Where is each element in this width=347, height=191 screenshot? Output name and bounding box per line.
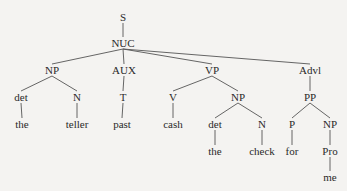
tree-node-NUC: NUC [111, 37, 134, 49]
tree-node-V: V [169, 91, 177, 103]
tree-node-check: check [249, 145, 275, 157]
tree-edge-NUC-NP1 [52, 49, 123, 64]
tree-edge-NP1-det1 [21, 76, 52, 91]
tree-node-me: me [323, 171, 336, 183]
tree-node-cash: cash [163, 118, 183, 130]
tree-edge-AUX-T [123, 76, 124, 91]
tree-node-the1: the [15, 118, 28, 130]
tree-edge-NP1-N1 [52, 76, 77, 91]
tree-node-Advl: Advl [299, 64, 321, 76]
tree-node-NP1: NP [45, 64, 59, 76]
tree-node-NP3: NP [323, 118, 337, 130]
tree-edge-NUC-VP [123, 49, 212, 64]
tree-edge-VP-V [173, 76, 212, 91]
tree-node-P: P [289, 118, 295, 130]
tree-node-the2: the [208, 145, 221, 157]
tree-node-past: past [113, 118, 131, 130]
tree-node-N1: N [73, 91, 81, 103]
tree-node-VP: VP [205, 64, 219, 76]
tree-node-det1: det [14, 91, 27, 103]
tree-node-NP2: NP [231, 91, 245, 103]
tree-edge-T-past [122, 103, 123, 118]
tree-edge-NUC-AUX [123, 49, 124, 64]
tree-edge-PP-NP3 [310, 103, 330, 118]
tree-node-N2: N [258, 118, 266, 130]
tree-node-det2: det [208, 118, 221, 130]
tree-node-S: S [120, 11, 126, 23]
tree-edge-det1-the1 [21, 103, 22, 118]
tree-node-T: T [120, 91, 127, 103]
tree-node-PP: PP [304, 91, 316, 103]
tree-edge-NP2-det2 [215, 103, 238, 118]
tree-node-Pro: Pro [322, 145, 337, 157]
tree-node-AUX: AUX [112, 64, 136, 76]
tree-edge-NP2-N2 [238, 103, 262, 118]
tree-edge-PP-P [292, 103, 310, 118]
tree-edge-VP-NP2 [212, 76, 238, 91]
tree-edge-NUC-Advl [123, 49, 310, 64]
tree-node-teller: teller [66, 118, 89, 130]
tree-node-for: for [286, 145, 299, 157]
